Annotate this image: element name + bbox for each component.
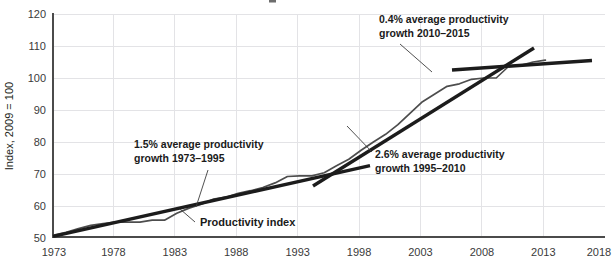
annotation-0-4-line1: 0.4% average productivity bbox=[379, 13, 509, 25]
x-tick-1983: 1983 bbox=[163, 246, 187, 258]
x-axis-tick-labels: 1973 1978 1983 1988 1993 1998 2003 2008 … bbox=[42, 246, 611, 258]
series-label-productivity-index: Productivity index bbox=[200, 216, 296, 228]
y-tick-60: 60 bbox=[34, 200, 46, 212]
x-tick-1978: 1978 bbox=[101, 246, 125, 258]
y-tick-110: 110 bbox=[28, 40, 46, 52]
y-tick-80: 80 bbox=[34, 136, 46, 148]
chart-canvas: 120 110 100 90 80 70 60 50 1973 1978 198… bbox=[0, 0, 613, 265]
x-tick-1988: 1988 bbox=[224, 246, 248, 258]
annotation-2-6-line2: growth 1995–2010 bbox=[375, 162, 466, 174]
x-tick-2013: 2013 bbox=[531, 246, 555, 258]
y-tick-90: 90 bbox=[34, 104, 46, 116]
x-tick-2008: 2008 bbox=[470, 246, 494, 258]
annotation-2-6-line1: 2.6% average productivity bbox=[375, 148, 505, 160]
y-tick-50: 50 bbox=[34, 232, 46, 244]
annotation-1-5-line1: 1.5% average productivity bbox=[134, 138, 264, 150]
plot-background bbox=[52, 14, 605, 238]
y-axis-tick-labels: 120 110 100 90 80 70 60 50 bbox=[28, 8, 46, 244]
x-tick-1998: 1998 bbox=[347, 246, 371, 258]
y-tick-70: 70 bbox=[34, 168, 46, 180]
y-tick-100: 100 bbox=[28, 72, 46, 84]
x-tick-1993: 1993 bbox=[285, 246, 309, 258]
y-tick-120: 120 bbox=[28, 8, 46, 20]
cropped-title-mark bbox=[269, 0, 276, 3]
x-tick-1973: 1973 bbox=[42, 246, 66, 258]
annotation-1-5-line2: growth 1973–1995 bbox=[134, 152, 225, 164]
productivity-chart: 120 110 100 90 80 70 60 50 1973 1978 198… bbox=[0, 0, 613, 265]
x-tick-2018: 2018 bbox=[587, 246, 611, 258]
annotation-0-4-line2: growth 2010–2015 bbox=[379, 27, 470, 39]
x-tick-2003: 2003 bbox=[408, 246, 432, 258]
y-axis-title: Index, 2009 = 100 bbox=[3, 82, 15, 170]
